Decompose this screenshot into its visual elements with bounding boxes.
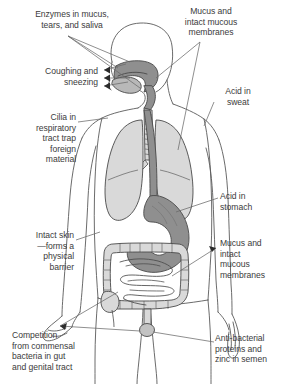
head-internal bbox=[109, 61, 158, 110]
label-mucus-top: Mucus and intact mucous membranes bbox=[161, 6, 261, 38]
neck-back bbox=[167, 80, 173, 104]
label-acid-stomach: Acid in stomach bbox=[220, 191, 286, 212]
label-coughing: Coughing and sneezing bbox=[6, 66, 98, 87]
arrowhead-cough-c bbox=[104, 83, 110, 90]
leader-enzymes-a bbox=[68, 36, 118, 68]
leader-mucustop-b bbox=[178, 42, 200, 150]
appendix bbox=[112, 310, 114, 327]
torso-left bbox=[94, 118, 102, 298]
right-leg-outer bbox=[208, 300, 211, 384]
left-hand-wrist bbox=[72, 312, 80, 327]
arrowhead-cough-a bbox=[104, 67, 110, 74]
right-arm-outer bbox=[219, 140, 232, 314]
arrowhead-cough-b bbox=[104, 75, 110, 82]
pelvic-node bbox=[140, 324, 155, 337]
figure-container: Enzymes in mucus, tears, and saliva Mucu… bbox=[0, 0, 289, 384]
left-arm-inner bbox=[80, 146, 96, 312]
label-mucus-mid: Mucus and intact mucous membranes bbox=[220, 238, 288, 280]
label-competition: Competition from commensal bacteria in g… bbox=[12, 330, 116, 372]
leader-cilia bbox=[78, 118, 108, 122]
leader-antibact bbox=[153, 332, 214, 342]
tongue bbox=[112, 77, 141, 93]
label-antibacterial: Anti-bacterial proteins and zinc in seme… bbox=[215, 333, 289, 365]
crotch-line bbox=[137, 306, 143, 384]
pharynx bbox=[144, 86, 155, 110]
label-enzymes: Enzymes in mucus, tears, and saliva bbox=[16, 9, 128, 30]
torso-right bbox=[204, 119, 212, 300]
cecum bbox=[101, 291, 119, 312]
leader-skin bbox=[76, 232, 100, 240]
label-intact-skin: Intact skin —forms a physical barrier bbox=[6, 230, 74, 272]
label-acid-sweat: Acid in sweat bbox=[206, 86, 270, 107]
label-cilia: Cilia in respiratory tract trap foreign … bbox=[8, 112, 76, 165]
right-hand-wrist bbox=[218, 312, 229, 330]
